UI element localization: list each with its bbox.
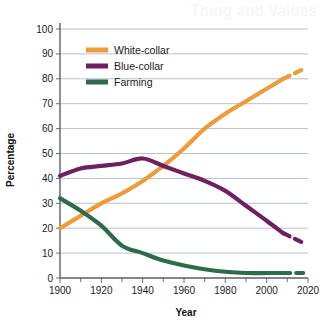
x-tick-label: 1900 [49,285,72,296]
series-projection-blue-collar [283,233,304,243]
x-tick-label: 1960 [173,285,196,296]
x-tick-label: 2020 [297,285,320,296]
x-tick-label: 2000 [256,285,279,296]
legend-label-farming: Farming [114,76,153,88]
legend-label-white-collar: White-collar [114,44,170,56]
x-axis-title: Year [175,307,196,318]
y-axis-tick-labels: 0102030405060708090100 [36,24,60,284]
y-tick-label: 60 [42,123,54,134]
y-tick-label: 70 [42,98,54,109]
data-series-group [60,69,304,273]
chart-container: Thing and Values 0102030405060708090100 … [0,0,323,323]
y-tick-label: 30 [42,198,54,209]
y-tick-label: 90 [42,48,54,59]
gridlines [60,29,308,253]
line-chart: 0102030405060708090100 19001920194019601… [0,0,323,323]
x-tick-label: 1940 [132,285,155,296]
x-axis-tickmarks [60,278,308,283]
y-tick-label: 100 [36,24,53,35]
y-tick-label: 0 [47,273,53,284]
background-bleedthrough-text: Thing and Values [190,2,317,20]
y-tick-label: 40 [42,173,54,184]
x-axis-tick-labels: 1900192019401960198020002020 [49,285,320,296]
x-tick-label: 1980 [214,285,237,296]
y-tick-label: 80 [42,73,54,84]
y-tick-label: 10 [42,248,54,259]
chart-legend: White-collarBlue-collarFarming [86,44,170,88]
legend-label-blue-collar: Blue-collar [114,60,164,72]
x-tick-label: 1920 [90,285,113,296]
y-tick-label: 50 [42,148,54,159]
y-tick-label: 20 [42,223,54,234]
y-axis-title: Percentage [5,133,16,187]
series-projection-white-collar [283,69,304,79]
